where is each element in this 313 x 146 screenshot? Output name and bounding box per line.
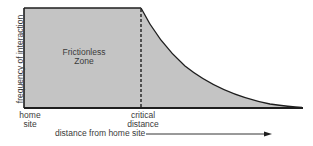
critical-distance-label: critical distance [121, 111, 165, 129]
zone-label-line2: Zone [54, 57, 114, 66]
arrowhead-icon [264, 132, 272, 137]
frictionless-zone-label: Frictionless Zone [54, 48, 114, 66]
x-axis-label: distance from home site [55, 129, 145, 138]
y-axis-label: frequency of interaction [15, 15, 25, 103]
home-site-line2: site [12, 120, 48, 129]
home-site-label: home site [12, 111, 48, 129]
